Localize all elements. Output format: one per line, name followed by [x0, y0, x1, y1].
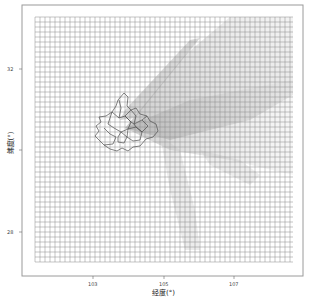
- y-tick-28: 28: [7, 229, 13, 235]
- y-tick-32: 32: [7, 66, 13, 72]
- y-axis-title: 纬度(°): [5, 128, 15, 158]
- x-tick-103: 103: [88, 281, 98, 287]
- map-figure: 32 30 28 103 105 107 经度(°) 纬度(°): [0, 0, 315, 298]
- x-tick-107: 107: [229, 281, 239, 287]
- map-canvas: [0, 0, 315, 298]
- x-axis-title: 经度(°): [152, 287, 175, 297]
